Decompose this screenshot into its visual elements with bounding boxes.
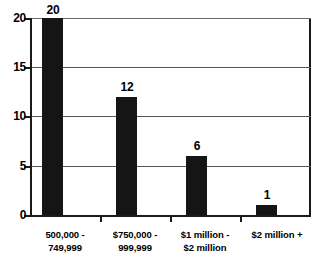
category-label-1: $750,000 - 999,999: [100, 228, 170, 254]
bar-value-2: 6: [176, 139, 218, 153]
x-tick-mark-3: [240, 215, 242, 222]
y-tick-label-0: 0: [2, 208, 26, 222]
bar-value-1: 12: [106, 80, 148, 94]
bar-chart: 20 15 10 5 0 20 12 6 1 500,000 - 749,999…: [0, 0, 322, 267]
category-label-0: 500,000 - 749,999: [30, 228, 100, 254]
category-label-2: $1 million - $2 million: [170, 228, 240, 254]
plot-area: [30, 18, 311, 215]
bar-value-3: 1: [246, 188, 288, 202]
gridline-5: [30, 166, 311, 167]
gridline-15: [30, 67, 311, 68]
category-label-1-line-1: $750,000 -: [100, 228, 170, 241]
gridline-10: [30, 116, 311, 117]
bar-1: [116, 97, 137, 215]
category-label-0-line-1: 500,000 -: [30, 228, 100, 241]
x-tick-mark-1: [100, 215, 102, 222]
bar-2: [186, 156, 207, 215]
category-label-3: $2 million +: [240, 228, 314, 241]
gridline-20: [30, 18, 311, 19]
y-tick-label-20: 20: [2, 11, 26, 25]
category-label-1-line-2: 999,999: [100, 241, 170, 254]
y-tick-label-5: 5: [2, 159, 26, 173]
x-tick-mark-2: [170, 215, 172, 222]
y-tick-label-10: 10: [2, 109, 26, 123]
category-label-3-line-1: $2 million +: [240, 228, 314, 241]
bar-0: [42, 18, 63, 215]
bar-3: [256, 205, 277, 215]
category-label-2-line-2: $2 million: [170, 241, 240, 254]
y-tick-label-15: 15: [2, 60, 26, 74]
bar-value-0: 20: [32, 3, 74, 17]
category-label-2-line-1: $1 million -: [170, 228, 240, 241]
category-label-0-line-2: 749,999: [30, 241, 100, 254]
